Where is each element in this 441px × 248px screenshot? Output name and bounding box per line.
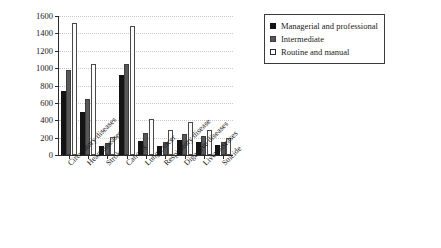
legend-item: Routine and manual (270, 45, 378, 58)
y-tick-label: 800 (23, 81, 53, 91)
y-tick-label: 400 (23, 115, 53, 125)
legend-label: Intermediate (281, 34, 324, 44)
y-tick-mark (55, 155, 58, 156)
legend-swatch-icon (270, 36, 276, 42)
y-tick-label: 1200 (23, 46, 53, 56)
bar (72, 23, 77, 155)
y-tick-label: 1400 (23, 28, 53, 38)
bar-group (61, 16, 77, 155)
legend-swatch-icon (270, 49, 276, 55)
y-tick-mark (55, 16, 58, 17)
y-tick-mark (55, 68, 58, 69)
legend-label: Routine and manual (281, 47, 349, 57)
y-tick-mark (55, 103, 58, 104)
bar (66, 70, 71, 155)
bar (61, 91, 66, 155)
y-tick-label: 1000 (23, 63, 53, 73)
legend-item: Managerial and professional (270, 19, 378, 32)
bar (130, 26, 135, 155)
y-tick-label: 1600 (23, 11, 53, 21)
y-tick-label: 600 (23, 98, 53, 108)
legend-label: Managerial and professional (281, 21, 378, 31)
plot-area: 02004006008001000120014001600 Circulator… (58, 16, 233, 156)
legend-swatch-icon (270, 23, 276, 29)
y-tick-mark (55, 51, 58, 52)
y-tick-mark (55, 33, 58, 34)
legend-item: Intermediate (270, 32, 378, 45)
y-tick-label: 200 (23, 133, 53, 143)
bar-group (138, 16, 154, 155)
y-tick-mark (55, 120, 58, 121)
bar-chart-figure: Deaths per million 020040060080010001200… (0, 0, 441, 248)
y-tick-label: 0 (23, 150, 53, 160)
bar (124, 64, 129, 155)
y-tick-mark (55, 86, 58, 87)
bar (119, 75, 124, 155)
y-tick-mark (55, 138, 58, 139)
chart-legend: Managerial and professionalIntermediateR… (264, 14, 385, 64)
